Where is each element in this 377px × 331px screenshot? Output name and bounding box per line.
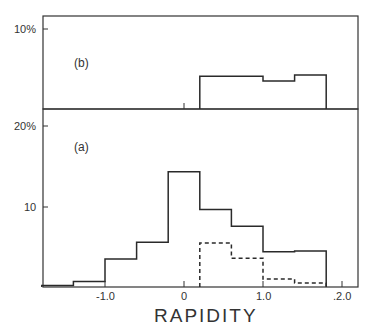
panel-a-label: (a) <box>74 140 89 154</box>
x-tick-label-0: 0 <box>181 290 187 302</box>
panel-a-histogram <box>42 172 326 287</box>
panel-b-label: (b) <box>74 56 89 70</box>
histogram-solid-line <box>200 75 326 109</box>
x-tick-label-neg1: -1.0 <box>96 290 115 302</box>
x-tick-label-1: 1.0 <box>256 290 271 302</box>
histogram-solid-line <box>42 172 326 287</box>
panel-a-ytick-label-10: 10 <box>24 201 36 213</box>
x-axis-ticks <box>105 281 342 287</box>
panel-b-histogram <box>200 75 326 109</box>
panel-a-ytick-label-20: 20% <box>14 120 36 132</box>
rapidity-histogram-figure: 10% (b) 20% 10 (a) -1.0 0 1.0 .2.0 RAPID… <box>0 0 377 331</box>
x-axis-title: RAPIDITY <box>154 305 258 326</box>
x-tick-label-2: .2.0 <box>333 290 351 302</box>
panel-b-ytick-label: 10% <box>14 23 36 35</box>
